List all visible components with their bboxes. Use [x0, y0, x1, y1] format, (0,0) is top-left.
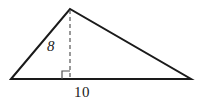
height-label: 8: [47, 39, 55, 54]
right-angle-marker-icon: [62, 71, 70, 79]
triangle-diagram-svg: [0, 0, 201, 103]
geometry-figure: 8 10: [0, 0, 201, 103]
triangle-outline: [11, 9, 191, 79]
base-label: 10: [74, 85, 90, 100]
